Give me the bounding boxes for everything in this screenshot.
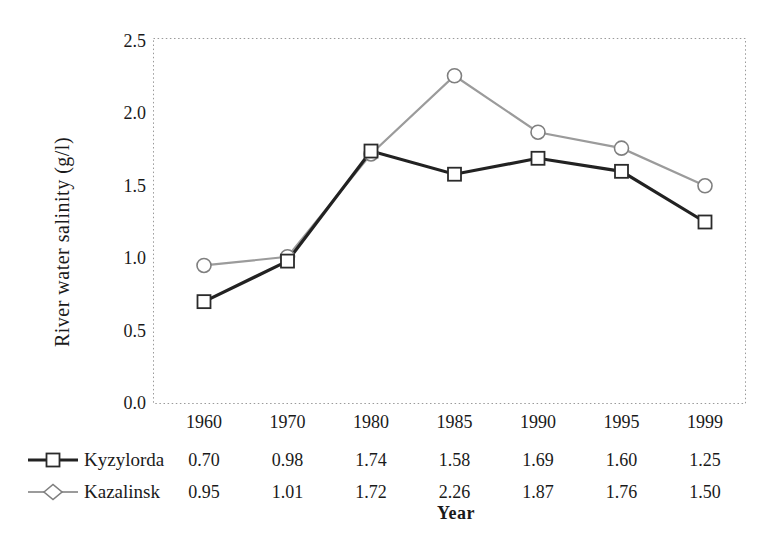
y-tick-label: 0.5 (124, 321, 147, 341)
year-label: 1990 (505, 411, 571, 433)
plot-frame (154, 39, 746, 404)
legend-item-kazalinsk: Kazalinsk (27, 480, 160, 504)
value-cell-kazalinsk: 1.76 (589, 481, 655, 503)
value-cell-kazalinsk: 0.95 (171, 481, 237, 503)
y-tick-label: 1.0 (124, 248, 147, 268)
year-label: 1970 (255, 411, 321, 433)
kyzylorda-square-marker-icon (27, 448, 79, 472)
value-cell-kyzylorda: 1.60 (589, 449, 655, 471)
value-cell-kazalinsk: 1.87 (505, 481, 571, 503)
value-cell-kyzylorda: 1.74 (338, 449, 404, 471)
chart-figure: River water salinity (g/l) 0.00.51.01.52… (0, 0, 780, 552)
legend-item-kyzylorda: Kyzylorda (27, 448, 164, 472)
year-label: 1995 (589, 411, 655, 433)
year-label: 1985 (422, 411, 488, 433)
year-label: 1980 (338, 411, 404, 433)
value-cell-kyzylorda: 1.25 (672, 449, 738, 471)
value-cell-kazalinsk: 2.26 (422, 481, 488, 503)
x-axis-title: Year (424, 503, 488, 524)
series-markers-kyzylorda (198, 145, 712, 309)
value-cell-kazalinsk: 1.72 (338, 481, 404, 503)
value-cell-kazalinsk: 1.01 (255, 481, 321, 503)
y-tick-label: 0.0 (124, 393, 147, 413)
legend-label-kazalinsk: Kazalinsk (84, 481, 160, 503)
year-label: 1999 (672, 411, 738, 433)
value-cell-kazalinsk: 1.50 (672, 481, 738, 503)
value-cell-kyzylorda: 1.58 (422, 449, 488, 471)
y-tick-label: 2.0 (124, 103, 147, 123)
value-cell-kyzylorda: 1.69 (505, 449, 571, 471)
value-cell-kyzylorda: 0.98 (255, 449, 321, 471)
legend-label-kyzylorda: Kyzylorda (84, 449, 164, 471)
year-label: 1960 (171, 411, 237, 433)
y-tick-label: 1.5 (124, 176, 147, 196)
y-tick-label: 2.5 (124, 31, 147, 51)
kazalinsk-diamond-marker-icon (27, 480, 79, 504)
value-cell-kyzylorda: 0.70 (171, 449, 237, 471)
